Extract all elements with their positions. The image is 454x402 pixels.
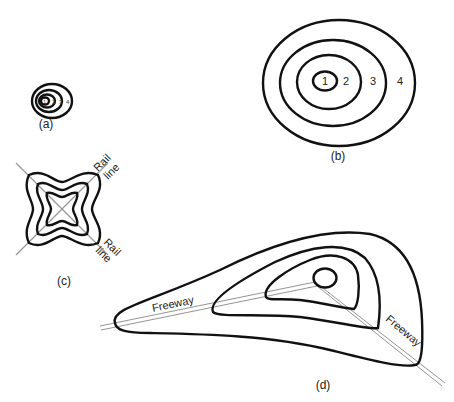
panel-a-label-4: 4 [66,99,70,105]
panel-d: Freeway Freeway (d) [100,233,445,393]
panel-b-label-4: 4 [397,75,403,87]
panel-d-caption: (d) [316,378,331,392]
panel-a-caption: (a) [39,117,54,131]
panel-b-label-3: 3 [370,75,376,87]
panel-a: 1 2 3 4 (a) [32,84,72,131]
panel-c-caption: (c) [57,274,71,288]
freeway-label-2: Freeway [384,312,424,349]
panel-b-ring-4 [263,20,415,146]
panel-b-caption: (b) [331,149,346,163]
panel-b-label-2: 2 [343,75,349,87]
panel-b-label-1: 1 [322,75,328,87]
figure-canvas: 1 2 3 4 (a) 1 2 3 4 (b) Rail line Rail l… [0,0,454,402]
panel-c: Rail line Rail line (c) [16,152,123,288]
panel-d-contour-inner [314,269,337,288]
panel-b: 1 2 3 4 (b) [263,20,415,163]
panel-b-ring-2 [297,55,361,109]
